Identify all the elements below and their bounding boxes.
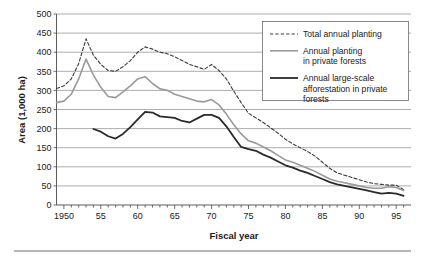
x-tick-label: 80 <box>280 211 290 221</box>
x-tick-label: 55 <box>96 211 106 221</box>
y-tick-label: 250 <box>36 105 51 115</box>
y-tick-label: 50 <box>41 181 51 191</box>
y-tick-label: 400 <box>36 47 51 57</box>
x-tick-label: 95 <box>391 211 401 221</box>
x-axis-title: Fiscal year <box>209 230 258 241</box>
legend-label-2: forests <box>303 94 329 104</box>
x-tick-label: 90 <box>354 211 364 221</box>
y-tick-label: 450 <box>36 28 51 38</box>
x-tick-label: 75 <box>243 211 253 221</box>
legend-label-2: Annual large-scale <box>303 73 374 83</box>
x-tick-label: 1950 <box>54 211 74 221</box>
y-axis-title: Area (1,000 ha) <box>16 76 27 144</box>
x-tick-label: 70 <box>207 211 217 221</box>
figure-container: 050100150200250300350400450500 195055606… <box>0 0 425 258</box>
y-tick-label: 300 <box>36 86 51 96</box>
y-tick-label: 100 <box>36 162 51 172</box>
y-tick-label: 150 <box>36 143 51 153</box>
legend-label-0: Total annual planting <box>303 29 382 39</box>
y-tick-label: 350 <box>36 67 51 77</box>
legend-label-2: afforestation in private <box>303 84 388 94</box>
y-tick-label: 200 <box>36 124 51 134</box>
y-tick-label: 0 <box>46 200 51 210</box>
legend-label-1: Annual planting <box>303 46 362 56</box>
legend-label-1: in private forests <box>303 56 366 66</box>
x-tick-label: 65 <box>170 211 180 221</box>
chart-legend: Total annual plantingAnnual plantingin p… <box>263 22 409 105</box>
x-tick-label: 85 <box>317 211 327 221</box>
line-chart: 050100150200250300350400450500 195055606… <box>0 0 425 258</box>
x-tick-label: 60 <box>133 211 143 221</box>
y-tick-label: 500 <box>36 9 51 19</box>
